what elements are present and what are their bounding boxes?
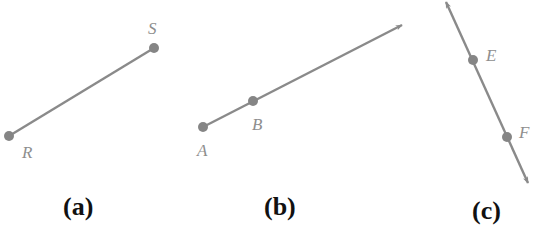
panel-a-segment-rs: R S (a) <box>4 19 159 221</box>
point-b-label: B <box>252 115 263 134</box>
point-a-label: A <box>196 141 208 160</box>
caption-a: (a) <box>63 192 93 221</box>
point-s-dot <box>149 43 159 53</box>
caption-c: (c) <box>472 196 501 225</box>
point-e-dot <box>468 55 478 65</box>
caption-b: (b) <box>264 192 296 221</box>
line-ef <box>446 2 528 183</box>
panel-c-line-ef: E F (c) <box>446 2 530 225</box>
point-r-dot <box>4 131 14 141</box>
point-b-dot <box>248 96 258 106</box>
segment-rs-line <box>9 48 154 136</box>
point-r-label: R <box>21 143 33 162</box>
point-s-label: S <box>148 19 157 38</box>
geometry-figure: R S (a) A B (b) E F (c) <box>0 0 538 225</box>
point-e-label: E <box>485 46 497 65</box>
point-a-dot <box>198 122 208 132</box>
point-f-dot <box>502 132 512 142</box>
panel-b-ray-ab: A B (b) <box>196 25 402 221</box>
ray-ab-line <box>203 25 402 127</box>
point-f-label: F <box>518 123 530 142</box>
